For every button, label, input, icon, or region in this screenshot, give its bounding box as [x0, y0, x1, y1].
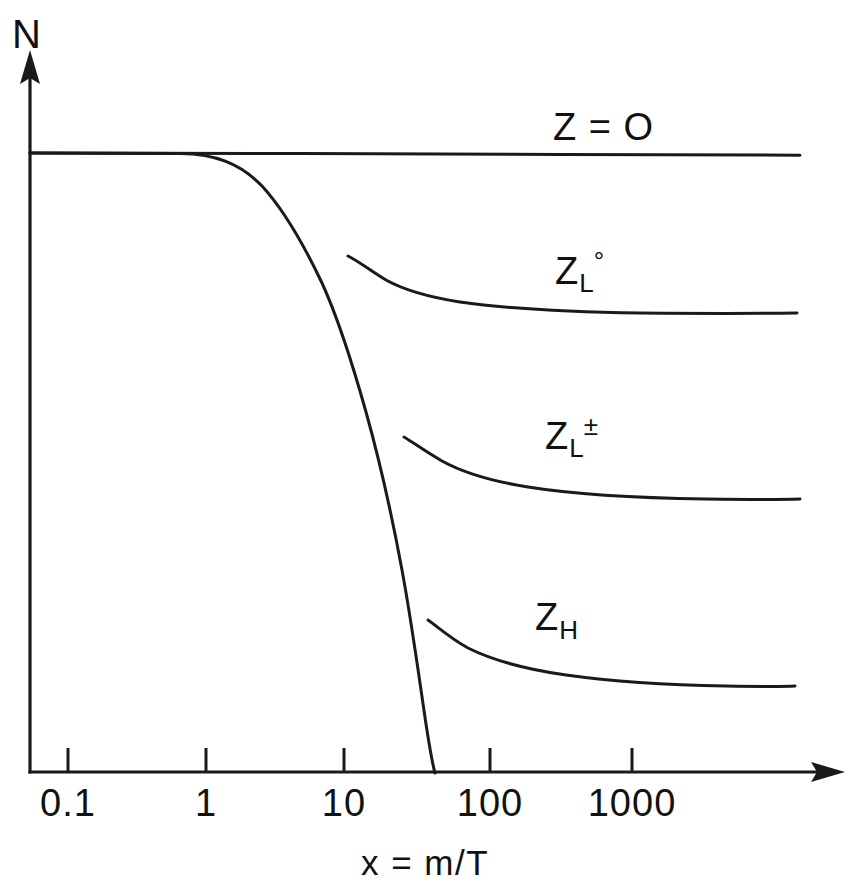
curve-label-z-l-charged-sub: L	[569, 433, 583, 463]
curve-label-z-heavy: ZH	[535, 598, 578, 643]
tick-label-1000: 1000	[588, 784, 677, 822]
curve-label-z-heavy-sub: H	[559, 615, 578, 645]
y-axis	[20, 50, 40, 772]
curve-label-z-l-neutral-sub: L	[579, 268, 593, 298]
curve-label-z-l-neutral-sup: °	[594, 246, 604, 276]
curve-z-l-charged	[404, 437, 800, 499]
curve-label-z-l-charged: ZL±	[545, 413, 598, 461]
tick-label-10: 10	[322, 784, 366, 822]
curve-label-z-zero: Z = O	[553, 108, 654, 146]
x-axis-title: x = m/T	[361, 845, 489, 880]
plot-svg	[0, 0, 853, 894]
curve-label-z-l-neutral-base: Z	[555, 250, 579, 292]
curve-label-z-zero-text: Z = O	[553, 106, 654, 148]
x-axis	[30, 762, 845, 782]
tick-label-1: 1	[195, 784, 217, 822]
curve-label-z-l-neutral: ZL°	[555, 248, 604, 296]
x-axis-ticks	[68, 748, 632, 772]
tick-label-100: 100	[457, 784, 523, 822]
curve-label-z-l-charged-base: Z	[545, 415, 569, 457]
tick-label-0.1: 0.1	[40, 784, 96, 822]
y-axis-label: N	[12, 14, 41, 54]
curve-z-heavy	[428, 620, 795, 686]
curve-equilibrium	[30, 153, 435, 773]
figure-canvas: N 0.1 1 10 100 1000 x = m/T Z = O ZL° ZL…	[0, 0, 853, 894]
curve-label-z-heavy-base: Z	[535, 596, 559, 638]
curve-label-z-l-charged-sup: ±	[584, 411, 598, 441]
